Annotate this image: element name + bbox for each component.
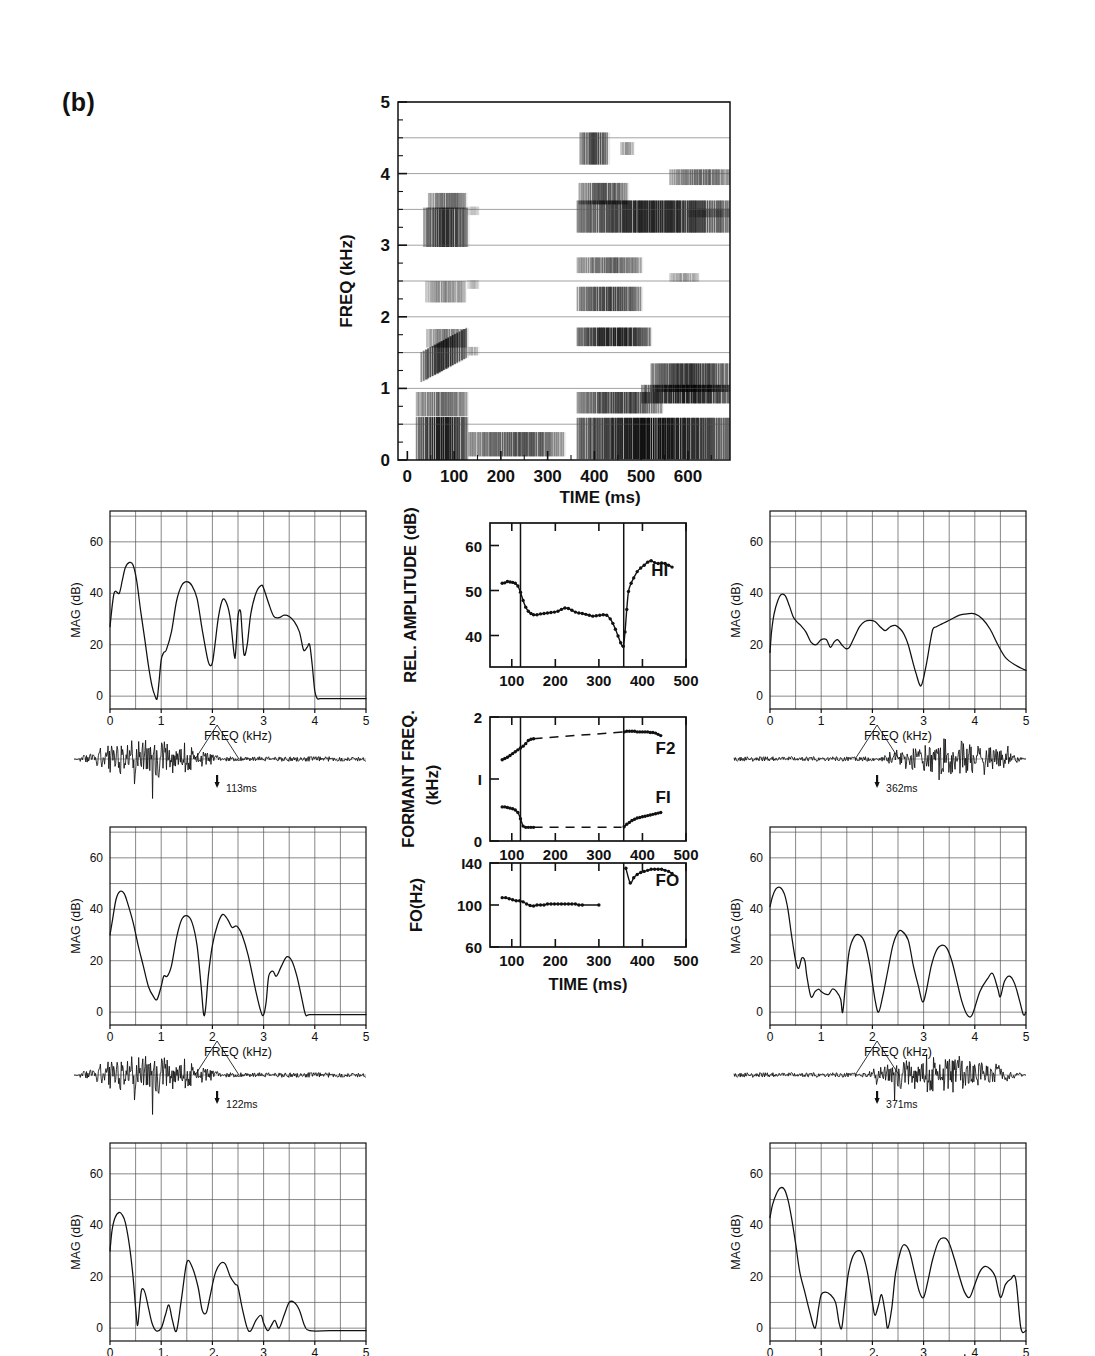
waveform-trace <box>74 1056 366 1114</box>
svg-text:0: 0 <box>767 1030 774 1044</box>
svg-text:40: 40 <box>750 902 764 916</box>
formant-annotation: FI <box>656 788 671 807</box>
spectrum-ylabel: MAG (dB) <box>729 898 743 954</box>
rel-amplitude-plot: 100200300400500405060HI <box>465 523 698 689</box>
svg-text:60: 60 <box>750 851 764 865</box>
svg-text:2: 2 <box>869 1346 876 1356</box>
spectrum-ylabel: MAG (dB) <box>69 582 83 638</box>
svg-text:400: 400 <box>580 467 608 486</box>
svg-text:40: 40 <box>750 586 764 600</box>
svg-text:0: 0 <box>96 1005 103 1019</box>
spectrum-ylabel: MAG (dB) <box>729 582 743 638</box>
svg-text:100: 100 <box>440 467 468 486</box>
svg-text:5: 5 <box>363 714 370 728</box>
svg-text:60: 60 <box>465 939 482 956</box>
svg-text:300: 300 <box>586 672 611 689</box>
svg-text:200: 200 <box>543 952 568 969</box>
svg-text:20: 20 <box>750 954 764 968</box>
svg-text:4: 4 <box>311 714 318 728</box>
svg-text:0: 0 <box>381 451 390 470</box>
svg-text:40: 40 <box>750 1218 764 1232</box>
spectrum-xlabel: FREQ (kHz) <box>864 1045 932 1059</box>
formant-ylabel-bottom: (kHz) <box>423 765 441 805</box>
svg-text:5: 5 <box>363 1030 370 1044</box>
svg-text:0: 0 <box>96 689 103 703</box>
svg-text:60: 60 <box>750 535 764 549</box>
svg-text:3: 3 <box>381 236 390 255</box>
amplitude-ylabel: REL. AMPLITUDE (dB) <box>401 507 419 682</box>
svg-text:4: 4 <box>381 165 391 184</box>
svg-text:500: 500 <box>673 672 698 689</box>
svg-text:0: 0 <box>107 1030 114 1044</box>
svg-text:60: 60 <box>90 851 104 865</box>
svg-text:5: 5 <box>1023 714 1030 728</box>
svg-text:40: 40 <box>90 586 104 600</box>
right-spectra-column: 0204060012345MAG (dB)FREQ (kHz)362ms0204… <box>718 505 1048 1355</box>
svg-text:5: 5 <box>1023 1346 1030 1356</box>
svg-text:0: 0 <box>107 714 114 728</box>
svg-text:200: 200 <box>543 672 568 689</box>
svg-text:1: 1 <box>158 1346 165 1356</box>
svg-text:0: 0 <box>756 689 763 703</box>
waveform-trace <box>734 1054 1026 1100</box>
svg-text:4: 4 <box>971 1346 978 1356</box>
svg-text:300: 300 <box>586 846 611 863</box>
svg-text:500: 500 <box>673 846 698 863</box>
svg-text:60: 60 <box>465 538 482 555</box>
svg-text:600: 600 <box>674 467 702 486</box>
svg-text:40: 40 <box>90 1218 104 1232</box>
spectrogram-panel: 012345FREQ (kHz)0100200300400500600TIME … <box>330 88 750 508</box>
svg-text:I40: I40 <box>461 855 482 872</box>
spectrum-left-bottom: 0204060012345MAG (dB)FREQ (kHz) <box>69 1143 370 1356</box>
spectrogram-energy <box>416 132 734 460</box>
svg-text:50: 50 <box>465 583 482 600</box>
svg-text:4: 4 <box>971 714 978 728</box>
svg-text:100: 100 <box>499 846 524 863</box>
svg-text:200: 200 <box>487 467 515 486</box>
svg-text:60: 60 <box>90 535 104 549</box>
panel-label-b: (b) <box>62 88 95 117</box>
svg-text:0: 0 <box>96 1321 103 1335</box>
spectrogram-y-axis: 012345 <box>381 93 407 470</box>
waveform-time-label: 362ms <box>886 782 918 794</box>
svg-text:5: 5 <box>381 93 390 112</box>
center-parameter-panel: 100200300400500405060HIREL. AMPLITUDE (d… <box>398 505 698 975</box>
svg-text:3: 3 <box>260 1346 267 1356</box>
svg-text:0: 0 <box>767 714 774 728</box>
spectrum-122ms: 0204060012345MAG (dB)FREQ (kHz) <box>69 827 370 1059</box>
waveform-time-label: 113ms <box>226 782 257 794</box>
f0-ylabel: FO(Hz) <box>407 878 425 932</box>
svg-text:400: 400 <box>630 672 655 689</box>
amplitude-annotation: HI <box>651 561 668 580</box>
svg-text:100: 100 <box>457 897 482 914</box>
svg-text:0: 0 <box>403 467 412 486</box>
formant-freq-plot: 1002003004005000I2F2FI <box>474 709 699 863</box>
waveform-trace <box>74 740 366 798</box>
formant-ylabel-top: FORMANT FREQ. <box>399 710 417 848</box>
f0-annotation: FO <box>656 871 680 890</box>
svg-text:400: 400 <box>630 952 655 969</box>
svg-text:1: 1 <box>818 714 825 728</box>
waveform-time-label: 122ms <box>226 1098 258 1110</box>
svg-text:0: 0 <box>756 1005 763 1019</box>
svg-text:3: 3 <box>260 714 267 728</box>
svg-text:400: 400 <box>630 846 655 863</box>
svg-text:20: 20 <box>90 1270 104 1284</box>
svg-text:1: 1 <box>381 379 390 398</box>
svg-text:5: 5 <box>1023 1030 1030 1044</box>
svg-text:5: 5 <box>363 1346 370 1356</box>
svg-text:20: 20 <box>750 638 764 652</box>
svg-text:1: 1 <box>158 714 165 728</box>
svg-text:1: 1 <box>158 1030 165 1044</box>
svg-text:300: 300 <box>533 467 561 486</box>
spectrum-xlabel: FREQ (kHz) <box>204 729 272 743</box>
spectrum-ylabel: MAG (dB) <box>69 898 83 954</box>
svg-text:2: 2 <box>381 308 390 327</box>
formant-annotation: F2 <box>656 739 676 758</box>
svg-text:40: 40 <box>465 628 482 645</box>
svg-text:60: 60 <box>750 1167 764 1181</box>
svg-text:2: 2 <box>869 1030 876 1044</box>
svg-text:20: 20 <box>90 954 104 968</box>
center-xlabel: TIME (ms) <box>549 975 628 993</box>
spectrum-xlabel: FREQ (kHz) <box>864 729 932 743</box>
